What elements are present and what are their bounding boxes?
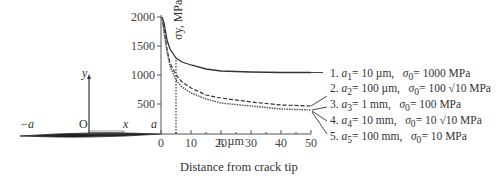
x-label: x	[122, 117, 129, 131]
chart-caption: Distance from crack tip	[180, 160, 298, 175]
origin-label: O	[79, 117, 88, 131]
y-label: y	[81, 66, 88, 80]
y-tick-1000: 1000	[131, 68, 155, 82]
y-tick-500: 500	[137, 97, 155, 111]
legend-item-4: 4. a4= 10 mm, σ0= 10 √10 MPa	[330, 114, 482, 130]
x-tick-30: 30	[245, 136, 257, 150]
x-tick-40: 40	[275, 136, 287, 150]
a-label: a	[151, 117, 157, 131]
y-tick-2000: 2000	[131, 10, 155, 24]
x-tick-0: 0	[158, 136, 164, 150]
legend-item-5: 5. a5= 100 mm, σ0= 10 MPa	[330, 130, 467, 146]
neg-a-label: −a	[20, 117, 34, 131]
x-tick-50: 50	[305, 136, 317, 150]
y-tick-1500: 1500	[131, 39, 155, 53]
y-axis-title: σy, MPa	[171, 0, 186, 40]
legend-leaders	[311, 73, 327, 135]
axes: 2000 1500 1000 500 0 10 20 30 40 50	[131, 10, 317, 150]
legend-item-1: 1. a1= 10 µm, σ0= 1000 MPa	[330, 67, 470, 83]
x-axis-title: r, µm	[218, 134, 244, 149]
legend-item-2: 2. a2= 100 µm, σ0= 100 √10 MPa	[330, 82, 491, 98]
x-tick-10: 10	[185, 136, 197, 150]
legend-item-3: 3. a3= 1 mm, σ0= 100 MPa	[330, 98, 461, 114]
crack-shape	[20, 133, 161, 137]
